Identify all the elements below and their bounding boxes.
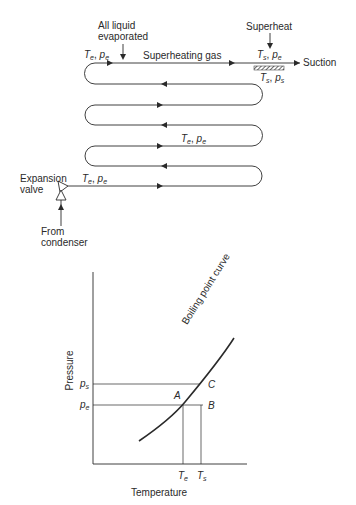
point-c-label: C [208, 379, 215, 390]
sensor-bulb [254, 66, 284, 70]
t-subscript: s [263, 54, 267, 61]
tick-subscript: e [184, 475, 188, 482]
t-subscript: e [187, 138, 191, 145]
y-tick-pe: pe [80, 399, 89, 413]
x-tick-ts: Ts [197, 470, 207, 484]
point-a-label: A [174, 390, 181, 401]
down-arrow-icon [120, 44, 126, 60]
suction-label: Suction [303, 57, 336, 68]
tick-subscript: s [86, 383, 90, 390]
expansion-valve-label: Expansion valve [20, 173, 67, 195]
state-label-top-left: Te, pe [84, 49, 109, 63]
p-subscript: e [105, 54, 109, 61]
state-label-middle: Te, pe [181, 133, 206, 147]
label-line: valve [20, 184, 67, 195]
all-liquid-evaporated-label: All liquid evaporated [98, 20, 148, 42]
down-arrow-icon [267, 33, 273, 49]
state-label-sensor-top: Ts, pe [257, 49, 282, 63]
inlet-line [58, 200, 64, 226]
label-line: Expansion [20, 173, 67, 184]
from-condenser-label: From condenser [41, 226, 88, 248]
evaporator-coil-diagram [0, 0, 356, 505]
tick-subscript: s [203, 475, 207, 482]
x-axis-label: Temperature [131, 487, 187, 498]
pt-chart [93, 272, 247, 464]
label-line: From [41, 226, 88, 237]
p-subscript: e [202, 138, 206, 145]
state-label-inlet: Te, pe [82, 173, 107, 187]
point-b-label: B [208, 400, 215, 411]
x-tick-te: Te [178, 470, 188, 484]
p-subscript: e [103, 178, 107, 185]
label-line: evaporated [98, 31, 148, 42]
p-subscript: s [281, 77, 285, 84]
label-line: condenser [41, 237, 88, 248]
t-subscript: e [88, 178, 92, 185]
boiling-point-curve [139, 338, 234, 441]
superheating-gas-label: Superheating gas [143, 50, 221, 61]
y-tick-ps: ps [80, 378, 89, 392]
y-axis-label: Pressure [64, 350, 75, 390]
p-subscript: e [278, 54, 282, 61]
state-label-sensor-bottom: Ts, ps [260, 72, 284, 86]
t-subscript: e [90, 54, 94, 61]
tick-subscript: e [86, 404, 90, 411]
superheat-label: Superheat [246, 21, 292, 32]
label-line: All liquid [98, 20, 148, 31]
t-subscript: s [266, 77, 270, 84]
